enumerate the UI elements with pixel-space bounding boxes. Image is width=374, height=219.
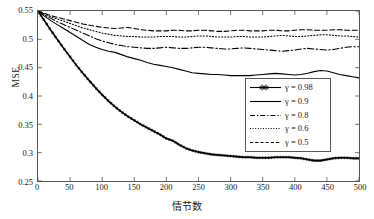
x-tick-label: 500	[354, 183, 367, 192]
legend-label-gamma-098: γ = 0.98	[285, 83, 313, 92]
legend-label-gamma-09: γ = 0.9	[285, 97, 308, 106]
x-tick-label: 50	[65, 183, 74, 192]
x-tick-label: 350	[257, 183, 270, 192]
x-axis-title: 情节数	[0, 198, 374, 213]
legend-item-gamma-05: γ = 0.5	[249, 136, 327, 149]
y-tick-label: 0.4	[22, 92, 33, 101]
legend-label-gamma-06: γ = 0.6	[285, 124, 308, 133]
x-axis-tick-labels: 050100150200250300350400450500	[0, 183, 374, 197]
y-tick-label: 0.5	[22, 34, 33, 43]
y-tick-label: 0.3	[22, 149, 33, 158]
y-tick-label: 0.55	[18, 6, 33, 15]
legend-sample-dotted	[249, 123, 282, 134]
y-axis-title: MSE	[11, 57, 21, 97]
x-tick-label: 400	[289, 183, 302, 192]
x-tick-label: 150	[128, 183, 141, 192]
legend-sample-solid-star	[249, 82, 282, 93]
legend-item-gamma-06: γ = 0.6	[249, 122, 327, 135]
legend-item-gamma-098: γ = 0.98	[249, 81, 327, 94]
legend-sample-solid	[249, 96, 282, 107]
chart-figure: 0.250.30.350.40.450.50.55 MSE 0501001502…	[0, 0, 374, 219]
legend-label-gamma-08: γ = 0.8	[285, 111, 308, 120]
y-tick-label: 0.35	[18, 120, 33, 129]
legend-item-gamma-09: γ = 0.9	[249, 95, 327, 108]
x-tick-label: 300	[224, 183, 237, 192]
legend-sample-dashdot	[249, 110, 282, 121]
x-tick-label: 450	[321, 183, 334, 192]
legend-label-gamma-05: γ = 0.5	[285, 138, 308, 147]
x-tick-label: 250	[192, 183, 205, 192]
x-tick-label: 200	[160, 183, 173, 192]
x-tick-label: 100	[95, 183, 108, 192]
legend-item-gamma-08: γ = 0.8	[249, 109, 327, 122]
x-tick-label: 0	[35, 183, 39, 192]
legend: γ = 0.98 γ = 0.9 γ = 0.8 γ = 0.6 γ = 0.5	[245, 78, 331, 152]
legend-sample-dashed	[249, 137, 282, 148]
